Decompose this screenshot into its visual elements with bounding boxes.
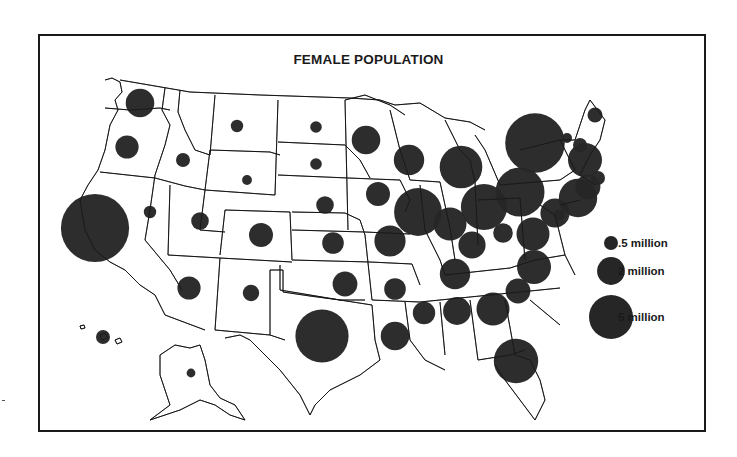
bubble-louisiana [381, 322, 410, 351]
inset-outline [115, 338, 122, 344]
inset-outline [150, 345, 245, 420]
bubble-michigan [440, 146, 483, 189]
state-border [178, 90, 210, 155]
bubble-texas [295, 309, 348, 362]
state-border [225, 210, 290, 212]
state-border [215, 330, 285, 340]
state-border [530, 300, 560, 325]
bubble-missouri [374, 225, 405, 256]
bubble-oklahoma [333, 272, 358, 297]
state-border [145, 175, 182, 290]
bubble-kansas [322, 232, 344, 254]
bubble-kentucky [458, 231, 485, 258]
bubble-florida [494, 339, 538, 383]
state-border [168, 255, 292, 262]
state-border [292, 230, 365, 232]
state-border [278, 142, 345, 145]
state-border [100, 172, 205, 190]
state-border [292, 260, 370, 262]
state-border [145, 175, 182, 290]
state-border [120, 80, 485, 130]
bubble-montana [231, 120, 243, 132]
state-border [560, 235, 565, 255]
state-border [155, 295, 205, 330]
bubble-iowa [366, 182, 390, 206]
state-border [168, 185, 170, 255]
bubble-pennsylvania [496, 168, 545, 217]
bubble-new-york [505, 113, 565, 173]
state-border [155, 88, 170, 175]
bubble-alabama [443, 297, 471, 325]
bubble-oregon [115, 135, 138, 158]
bubble-colorado [249, 223, 273, 247]
legend-symbols [589, 236, 633, 339]
bubble-indiana [434, 208, 467, 241]
bubble-nebraska [316, 196, 334, 214]
bubble-wisconsin [394, 145, 424, 175]
state-border [210, 150, 280, 155]
state-border [365, 235, 372, 300]
bubble-south-dakota [310, 158, 322, 170]
state-border [275, 100, 278, 195]
bubble-georgia [477, 293, 510, 326]
bubble-new-mexico [243, 285, 259, 301]
inset-outline [80, 325, 85, 329]
bubble-vermont [562, 133, 572, 143]
state-border [220, 210, 225, 255]
scan-mark [2, 400, 5, 401]
bubble-alaska [187, 369, 196, 378]
state-border [215, 258, 220, 330]
state-border [290, 212, 292, 260]
bubble-california [61, 194, 129, 262]
legend-symbol-0 [604, 236, 618, 250]
bubble-maine [588, 108, 603, 123]
state-border [178, 90, 210, 155]
bubble-west-virginia [493, 223, 513, 243]
bubble-washington [126, 89, 155, 118]
state-border [210, 95, 215, 155]
state-border [345, 100, 348, 230]
state-border [410, 180, 440, 182]
us-map [0, 0, 737, 457]
bubble-minnesota [352, 126, 381, 155]
legend-label-5m: 5 million [618, 311, 665, 323]
bubble-wyoming [242, 175, 252, 185]
legend-label-0.5m: .5 million [618, 237, 668, 249]
bubble-north-dakota [310, 121, 322, 133]
state-border [215, 330, 285, 340]
bubble-north-carolina [517, 250, 551, 284]
state-border [372, 300, 420, 302]
state-border [155, 88, 170, 175]
bubble-arkansas [384, 278, 406, 300]
bubble-idaho [176, 153, 190, 167]
legend-label-2m: 2 million [618, 265, 665, 277]
state-border [155, 295, 205, 330]
state-border [205, 150, 210, 190]
state-border [278, 175, 348, 178]
state-border [205, 190, 275, 195]
state-border [120, 80, 485, 130]
bubble-mississippi [413, 302, 435, 324]
